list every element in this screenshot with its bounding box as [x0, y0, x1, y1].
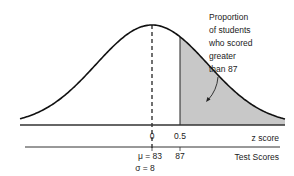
annotation-line: who scored [208, 38, 253, 48]
score-tick-label-87: 87 [175, 151, 185, 161]
z-tick-label-0: 0 [150, 131, 155, 141]
z-axis-label: z score [252, 133, 280, 143]
annotation-line: Proportion [209, 12, 248, 22]
z-tick-label-1: 0.5 [174, 131, 186, 141]
shaded-tail-area [180, 37, 285, 125]
sigma-label: σ = 8 [135, 163, 155, 173]
mean-label: μ = 83 [138, 151, 162, 161]
annotation-line: than 87 [209, 64, 238, 74]
normal-distribution-figure: 0 0.5 z score μ = 83 87 σ = 8 Test Score… [0, 0, 294, 176]
score-axis-label: Test Scores [235, 152, 279, 162]
annotation: Proportion of students who scored greate… [208, 12, 253, 74]
annotation-line: greater [209, 51, 236, 61]
annotation-line: of students [209, 25, 251, 35]
